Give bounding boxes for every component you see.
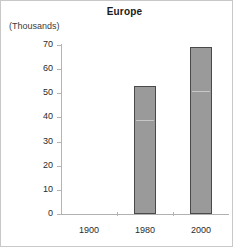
y-tick-label: 50 (29, 87, 53, 98)
y-tick-mark (57, 93, 61, 94)
y-tick-mark (57, 142, 61, 143)
y-tick-mark (57, 117, 61, 118)
x-tick-mark (117, 212, 118, 216)
y-tick-label: 60 (29, 63, 53, 74)
y-tick-mark (57, 214, 61, 215)
y-tick-mark (57, 190, 61, 191)
x-tick-mark (173, 212, 174, 216)
x-tick-label: 1900 (64, 225, 114, 236)
bar (134, 86, 156, 214)
page-title: Europe (1, 6, 233, 17)
y-tick-label: 10 (29, 184, 53, 195)
x-tick-label: 2000 (176, 225, 226, 236)
y-tick-label: 40 (29, 111, 53, 122)
y-tick-label: 0 (29, 208, 53, 219)
y-tick-mark (57, 166, 61, 167)
y-tick-label: 20 (29, 160, 53, 171)
y-tick-mark (57, 45, 61, 46)
y-axis-line (61, 44, 62, 215)
x-tick-label: 1980 (120, 225, 170, 236)
bar (190, 47, 212, 214)
bar-chart: Europe (Thousands) 706050403020100 19001… (0, 0, 233, 247)
bar-highlight (192, 91, 210, 92)
y-tick-label: 70 (29, 39, 53, 50)
y-axis-units-label: (Thousands) (9, 21, 60, 31)
bar-highlight (136, 120, 154, 121)
y-tick-mark (57, 69, 61, 70)
x-axis-line (59, 214, 229, 215)
y-tick-label: 30 (29, 136, 53, 147)
